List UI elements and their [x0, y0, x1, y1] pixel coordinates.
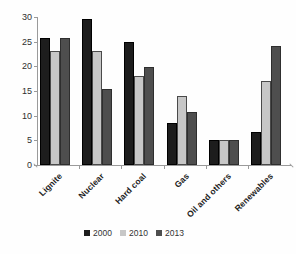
bar-2010-oil-and-others	[219, 140, 229, 165]
bar-2000-hard-coal	[124, 42, 134, 165]
y-tick-label: 15	[2, 86, 32, 96]
legend-label: 2013	[165, 228, 184, 238]
legend-swatch-2010	[120, 230, 126, 236]
legend-label: 2000	[93, 228, 112, 238]
bar-group-nuclear	[80, 17, 122, 165]
bar-2013-lignite	[60, 38, 70, 165]
bar-2010-lignite	[50, 51, 60, 165]
legend-label: 2010	[129, 228, 148, 238]
legend-item-2013: 2013	[156, 228, 184, 238]
axis-corner-tick	[289, 163, 293, 167]
bar-2010-nuclear	[92, 51, 102, 165]
bar-group-gas	[165, 17, 207, 165]
bar-2000-oil-and-others	[209, 140, 219, 165]
bar-2000-lignite	[40, 38, 50, 165]
bar-2010-renewables	[261, 81, 271, 165]
y-tick-label: 10	[2, 111, 32, 121]
bar-2013-nuclear	[102, 89, 112, 165]
bar-group-hard-coal	[122, 17, 164, 165]
bar-group-oil-and-others	[207, 17, 249, 165]
y-tick-label: 0	[2, 160, 32, 170]
bar-2010-gas	[177, 96, 187, 165]
legend-item-2000: 2000	[84, 228, 112, 238]
legend-swatch-2000	[84, 230, 90, 236]
bar-2013-oil-and-others	[229, 140, 239, 165]
x-tick-mark	[121, 166, 122, 169]
y-tick-label: 5	[2, 135, 32, 145]
y-tick-label: 25	[2, 37, 32, 47]
bar-2000-gas	[167, 123, 177, 165]
bar-2013-hard-coal	[144, 67, 154, 165]
x-tick-mark	[248, 166, 249, 169]
bar-2013-renewables	[271, 46, 281, 165]
x-tick-mark	[164, 166, 165, 169]
bar-chart: 051015202530 LigniteNuclearHard coalGasO…	[0, 0, 296, 254]
x-tick-mark	[79, 166, 80, 169]
bar-group-lignite	[38, 17, 80, 165]
y-tick-label: 20	[2, 61, 32, 71]
bar-2000-renewables	[251, 132, 261, 165]
bar-2010-hard-coal	[134, 76, 144, 165]
legend-item-2010: 2010	[120, 228, 148, 238]
legend: 200020102013	[0, 228, 268, 238]
bar-2000-nuclear	[82, 19, 92, 165]
x-tick-mark	[206, 166, 207, 169]
y-tick-label: 30	[2, 12, 32, 22]
bar-2013-gas	[187, 112, 197, 165]
plot-area	[37, 17, 291, 166]
legend-swatch-2013	[156, 230, 162, 236]
bar-groups	[38, 17, 291, 165]
bar-group-renewables	[249, 17, 291, 165]
